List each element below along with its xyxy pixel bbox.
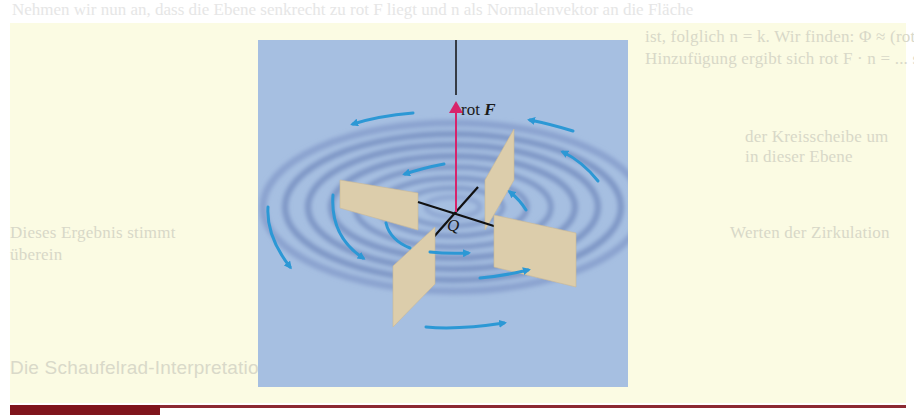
bleed-through-text: Hinzufügung ergibt sich rot F · n = ... … — [645, 49, 914, 69]
bleed-through-text: ist, folglich n = k. Wir finden: Φ ≈ (ro… — [645, 27, 914, 47]
section-rule-block — [10, 405, 160, 415]
bleed-through-text: Werten der Zirkulation — [730, 223, 890, 243]
paddle-back-left — [340, 180, 418, 230]
curl-label-symbol: F — [484, 100, 495, 119]
bleed-through-text: überein — [10, 245, 62, 265]
bleed-through-text-top: Nehmen wir nun an, dass die Ebene senkre… — [12, 0, 912, 22]
paddle-wheel-illustration — [258, 40, 628, 387]
curl-label-prefix: rot — [461, 100, 484, 119]
textbook-page: Nehmen wir nun an, dass die Ebene senkre… — [0, 0, 914, 415]
bleed-through-text: in dieser Ebene — [745, 147, 853, 167]
curl-label: rot F — [461, 100, 495, 120]
bleed-through-text: der Kreisscheibe um — [745, 127, 889, 147]
point-label: Q — [447, 216, 459, 236]
bleed-through-text: Dieses Ergebnis stimmt — [10, 223, 176, 243]
section-rule-line — [160, 405, 906, 408]
paddle-wheel-figure: rot F Q — [258, 40, 628, 387]
